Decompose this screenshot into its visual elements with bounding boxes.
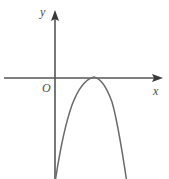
parabola-curve [56,77,127,179]
y-axis-label: y [40,6,45,18]
origin-label: O [42,82,51,94]
x-axis-label: x [153,85,158,97]
graph-figure: y x O [0,0,169,179]
coordinate-plot [0,0,169,179]
